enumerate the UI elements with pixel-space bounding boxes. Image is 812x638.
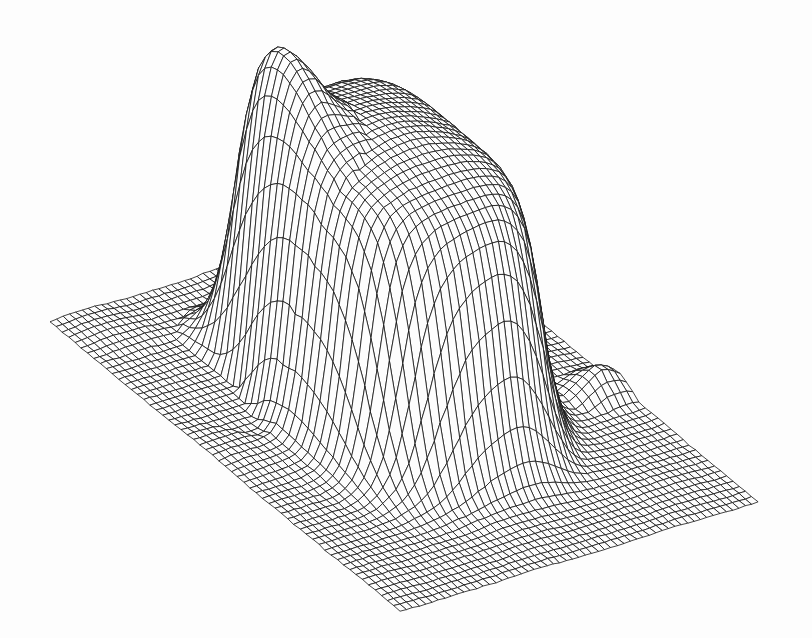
figure-root — [0, 0, 812, 638]
wireframe-surface-plot — [0, 0, 812, 638]
